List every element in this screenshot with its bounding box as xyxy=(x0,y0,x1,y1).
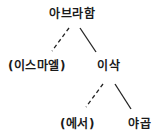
node-esau: (에서) xyxy=(60,117,95,131)
node-ishmael: (이스마엘) xyxy=(8,59,66,73)
edge-abraham-ishmael xyxy=(52,28,69,51)
edge-abraham-isaac xyxy=(80,28,96,52)
node-isaac: 이삭 xyxy=(97,59,120,73)
edge-isaac-jacob xyxy=(115,84,131,109)
node-jacob: 야곱 xyxy=(128,117,151,131)
edge-isaac-esau xyxy=(86,84,103,107)
node-abraham: 아브라함 xyxy=(49,7,95,21)
